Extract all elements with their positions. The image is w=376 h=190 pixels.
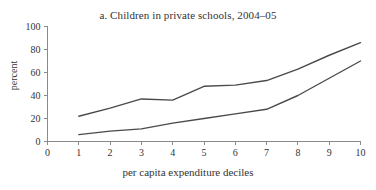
x-tick-label: 5 <box>202 147 207 158</box>
x-tick-label: 10 <box>356 147 366 158</box>
data-series-group <box>79 43 361 135</box>
x-tick-label: 1 <box>76 147 81 158</box>
chart-figure: a. Children in private schools, 2004–05 … <box>0 0 376 190</box>
y-tick-label: 40 <box>31 90 41 101</box>
y-tick-label: 60 <box>31 67 41 78</box>
y-tick-label: 100 <box>26 21 41 32</box>
x-tick-label: 4 <box>170 147 175 158</box>
x-tick-label: 2 <box>108 147 113 158</box>
y-tick-label: 80 <box>31 44 41 55</box>
x-tick-label: 6 <box>233 147 238 158</box>
x-axis-ticks: 012345678910 <box>45 142 366 158</box>
x-tick-label: 3 <box>139 147 144 158</box>
y-tick-label: 20 <box>31 113 41 124</box>
x-tick-label: 9 <box>327 147 332 158</box>
x-tick-label: 8 <box>295 147 300 158</box>
x-tick-label: 7 <box>264 147 269 158</box>
chart-plot-area: 020406080100 012345678910 <box>0 0 376 190</box>
series-line-upper-line <box>79 43 361 117</box>
x-tick-label: 0 <box>45 147 50 158</box>
series-line-lower-line <box>79 61 361 135</box>
y-axis-ticks: 020406080100 <box>26 21 48 147</box>
y-tick-label: 0 <box>36 136 41 147</box>
